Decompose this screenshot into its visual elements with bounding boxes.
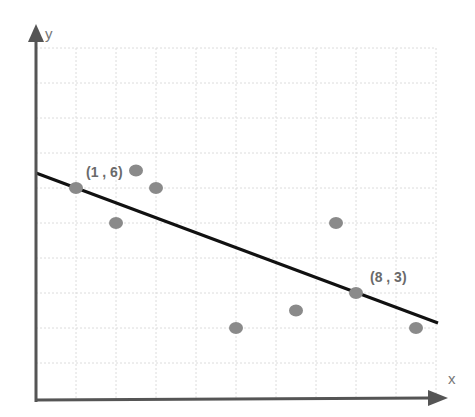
x-axis — [36, 398, 430, 400]
data-point — [69, 182, 83, 194]
data-points — [69, 165, 423, 335]
annotation-point-8-3: (8 , 3) — [370, 269, 407, 285]
trend-line — [36, 173, 438, 323]
data-point — [149, 182, 163, 194]
grid-lines — [36, 48, 436, 398]
x-axis-label: x — [448, 370, 456, 387]
y-axis-arrow-icon — [28, 24, 44, 42]
data-point — [289, 305, 303, 317]
y-axis-label: y — [45, 25, 53, 42]
data-point — [229, 322, 243, 334]
x-axis-arrow-icon — [428, 390, 448, 406]
data-point — [329, 217, 343, 229]
data-point — [349, 287, 363, 299]
data-point — [409, 322, 423, 334]
scatter-chart: y x (1 , 6) (8 , 3) — [0, 0, 475, 417]
annotation-point-1-6: (1 , 6) — [86, 164, 123, 180]
data-point — [109, 217, 123, 229]
data-point — [129, 165, 143, 177]
